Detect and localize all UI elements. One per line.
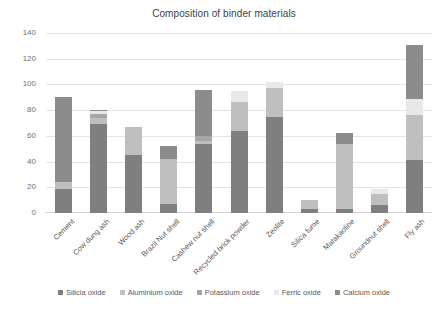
bar-segment <box>406 160 423 213</box>
bar-cow-dung-ash[interactable] <box>90 110 107 213</box>
bar-segment <box>231 131 248 213</box>
bar-wood-ash[interactable] <box>125 127 142 213</box>
chart-legend: Silicia oxideAluminium oxidePotassium ox… <box>0 288 448 297</box>
bar-cement[interactable] <box>55 97 72 213</box>
legend-item[interactable]: Potassium oxide <box>197 288 260 297</box>
bar-fly-ash[interactable] <box>406 45 423 213</box>
legend-label: Calcium oxide <box>343 288 390 297</box>
bar-segment <box>406 45 423 99</box>
bar-segment <box>160 159 177 204</box>
bar-segment <box>55 97 72 182</box>
bar-zeolite[interactable] <box>266 82 283 213</box>
y-axis-tick: 140 <box>6 28 36 37</box>
bar-segment <box>266 117 283 213</box>
gridline <box>46 33 432 34</box>
bar-segment <box>406 115 423 160</box>
x-axis-tick: Silica fume <box>289 217 321 249</box>
gridline <box>46 59 432 60</box>
bar-segment <box>55 189 72 213</box>
y-axis-tick: 100 <box>6 79 36 88</box>
bar-segment <box>125 127 142 155</box>
chart-title: Composition of binder materials <box>0 8 448 19</box>
bar-matakaoline[interactable] <box>336 133 353 213</box>
x-axis-tick-label: Matakaoline <box>322 217 357 252</box>
bar-cashew-nut-shell[interactable] <box>195 90 212 213</box>
y-axis-tick: 60 <box>6 131 36 140</box>
x-axis-tick: Matakaoline <box>322 217 357 252</box>
bar-recycled-brick-powder[interactable] <box>231 91 248 213</box>
bar-segment <box>301 200 318 209</box>
x-axis-tick-label: Cow dung ash <box>71 217 111 257</box>
bar-brazil-nut-shell[interactable] <box>160 146 177 213</box>
bar-segment <box>195 144 212 213</box>
bar-groundnut-shell[interactable] <box>371 189 388 213</box>
x-axis-tick: Wood ash <box>116 217 146 247</box>
bar-segment <box>125 155 142 213</box>
x-axis-labels: CementCow dung ashWood ashBrazil Nut she… <box>46 213 432 275</box>
y-axis-tick: 80 <box>6 105 36 114</box>
y-axis: 020406080100120140 <box>0 0 46 312</box>
legend-item[interactable]: Ferric oxide <box>274 288 321 297</box>
bar-segment <box>336 144 353 210</box>
bar-segment <box>195 90 212 136</box>
legend-label: Aluminium oxide <box>128 288 183 297</box>
legend-swatch-icon <box>274 290 279 295</box>
bar-segment <box>406 99 423 116</box>
gridline <box>46 84 432 85</box>
x-axis-tick-label: Cement <box>51 217 76 242</box>
x-axis-tick-label: Silica fume <box>289 217 321 249</box>
y-axis-tick: 0 <box>6 208 36 217</box>
x-axis-tick: Cow dung ash <box>71 217 111 257</box>
bar-segment <box>336 133 353 143</box>
bar-silica-fume[interactable] <box>301 200 318 213</box>
x-axis-tick-label: Zeolite <box>264 217 286 239</box>
x-axis-tick: Cement <box>51 217 76 242</box>
legend-label: Silicia oxide <box>66 288 106 297</box>
bar-segment <box>160 204 177 213</box>
legend-item[interactable]: Silicia oxide <box>58 288 106 297</box>
x-axis-tick-label: Fly ash <box>403 217 426 240</box>
legend-swatch-icon <box>197 290 202 295</box>
legend-swatch-icon <box>335 290 340 295</box>
plot-area <box>46 33 432 213</box>
bar-segment <box>231 102 248 130</box>
legend-swatch-icon <box>58 290 63 295</box>
bar-segment <box>371 194 388 206</box>
bar-segment <box>371 205 388 213</box>
legend-label: Ferric oxide <box>282 288 321 297</box>
bar-segment <box>90 124 107 213</box>
legend-item[interactable]: Aluminium oxide <box>120 288 183 297</box>
y-axis-tick: 40 <box>6 157 36 166</box>
chart-container: Composition of binder materials 02040608… <box>0 0 448 312</box>
x-axis-tick: Fly ash <box>403 217 426 240</box>
x-axis-tick: Zeolite <box>264 217 286 239</box>
x-axis-tick-label: Wood ash <box>116 217 146 247</box>
bar-segment <box>160 146 177 159</box>
legend-label: Potassium oxide <box>205 288 260 297</box>
legend-swatch-icon <box>120 290 125 295</box>
y-axis-tick: 20 <box>6 182 36 191</box>
bar-segment <box>266 88 283 116</box>
y-axis-tick: 120 <box>6 54 36 63</box>
bar-segment <box>231 91 248 103</box>
legend-item[interactable]: Calcium oxide <box>335 288 390 297</box>
